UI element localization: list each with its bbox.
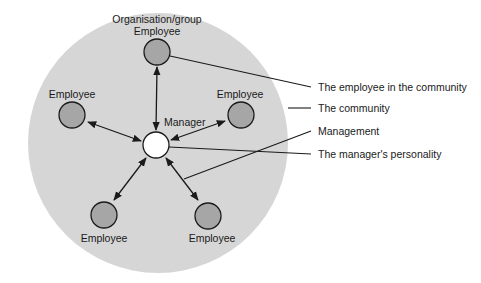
- manager-label: Manager: [164, 116, 206, 128]
- callout-labels-layer: The employee in the communityThe communi…: [318, 81, 468, 160]
- employee-circle: [228, 102, 254, 128]
- callout-label: The employee in the community: [318, 81, 468, 93]
- callout-label: Management: [318, 125, 379, 137]
- employee-label: Employee: [217, 88, 264, 100]
- manager-node: [143, 132, 169, 158]
- callout-label: The manager's personality: [318, 148, 442, 160]
- employee-label: Employee: [189, 232, 236, 244]
- callout-label: The community: [318, 102, 391, 114]
- employee-label: Employee: [134, 25, 181, 37]
- employee-circle: [195, 203, 221, 229]
- manager-community-diagram: Manager EmployeeOrganisation/groupEmploy…: [0, 0, 481, 283]
- employee-label: Employee: [49, 88, 96, 100]
- employee-circle: [144, 39, 170, 65]
- organisation-group-label: Organisation/group: [112, 13, 201, 25]
- employee-circle: [59, 102, 85, 128]
- employee-label: Employee: [81, 232, 128, 244]
- employee-circle: [91, 202, 117, 228]
